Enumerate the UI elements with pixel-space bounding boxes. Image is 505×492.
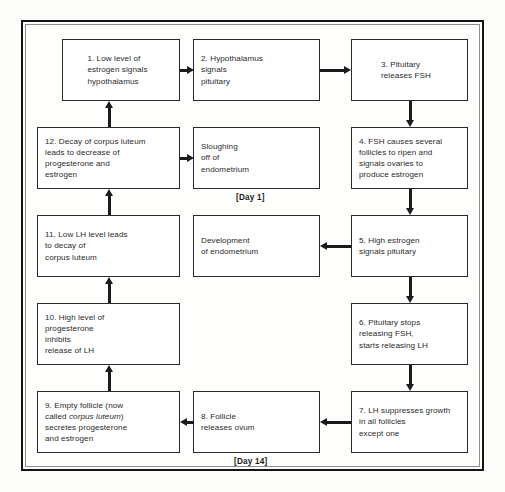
flow-arrow-1-to-2 bbox=[180, 66, 194, 75]
node-text-line: 1. Low level of bbox=[87, 53, 147, 64]
flowchart-node-step-1: 1. Low level ofestrogen signalshypothala… bbox=[62, 39, 180, 101]
flow-arrow-4-to-5 bbox=[406, 189, 415, 215]
flowchart-node-step-5: 5. High estrogensignals pituitary bbox=[351, 215, 468, 277]
node-text-line: 7. LH suppresses growth bbox=[359, 405, 460, 416]
arrow-head bbox=[105, 277, 113, 284]
node-text-line: estrogen bbox=[45, 169, 172, 180]
flow-arrow-6-to-7 bbox=[406, 365, 415, 391]
node-text-line: and estrogen bbox=[45, 433, 172, 444]
node-text-line: inhibits bbox=[45, 334, 172, 345]
arrow-shaft bbox=[325, 421, 351, 423]
arrow-shaft bbox=[108, 370, 110, 391]
node-text-line: 11. Low LH level leads bbox=[45, 229, 172, 240]
arrow-shaft bbox=[409, 365, 411, 386]
node-text-line: to decay of bbox=[45, 240, 172, 251]
node-text-line: signals ovaries to bbox=[359, 158, 460, 169]
node-text-line: signals bbox=[201, 64, 312, 75]
node-text-line: secretes progesterone bbox=[45, 422, 172, 433]
node-text-line: leads to decrease of bbox=[45, 147, 172, 158]
arrow-head bbox=[406, 384, 414, 391]
arrow-shaft bbox=[108, 106, 110, 127]
flowchart-node-step-6: 6. Pituitary stopsreleasing FSH,starts r… bbox=[351, 303, 468, 365]
arrow-shaft bbox=[325, 245, 351, 247]
arrow-head bbox=[180, 418, 187, 426]
node-text: 1. Low level ofestrogen signalshypothala… bbox=[87, 53, 154, 87]
node-text: 11. Low LH level leadsto decay ofcorpus … bbox=[38, 229, 179, 263]
node-text-line: progesterone bbox=[45, 323, 172, 334]
flow-arrow-10-to-11 bbox=[105, 277, 114, 303]
flowchart-node-step-4: 4. FSH causes severalfollicles to ripen … bbox=[351, 127, 468, 189]
arrow-head bbox=[187, 154, 194, 162]
arrow-head bbox=[406, 120, 414, 127]
flow-arrow-7-to-8 bbox=[320, 418, 351, 427]
flowchart-node-development: Developmentof endometrium bbox=[193, 215, 320, 277]
node-text-line: progesterone and bbox=[45, 158, 172, 169]
flowchart-node-step-9: 9. Empty follicle (nowcalled corpus lute… bbox=[37, 391, 180, 453]
node-text-line: releases ovum bbox=[201, 422, 312, 433]
node-text-line: starts releasing LH bbox=[359, 340, 460, 351]
node-text: 6. Pituitary stopsreleasing FSH,starts r… bbox=[352, 317, 467, 351]
arrow-head bbox=[406, 208, 414, 215]
day-caption-day-14: [Day 14] bbox=[234, 457, 267, 466]
node-text-line: of endometrium bbox=[201, 246, 312, 257]
arrow-head bbox=[187, 66, 194, 74]
node-text-line: produce estrogen bbox=[359, 169, 460, 180]
node-text-line: release of LH bbox=[45, 345, 172, 356]
flow-arrow-12-to-sloughing bbox=[180, 154, 194, 163]
flowchart-node-step-3: 3. Pituitaryreleases FSH bbox=[351, 39, 468, 101]
node-text-line: 8. Follicle bbox=[201, 411, 312, 422]
node-text-line: 3. Pituitary bbox=[381, 59, 431, 70]
node-text-line: in all follicles bbox=[359, 416, 460, 427]
arrow-shaft bbox=[108, 194, 110, 215]
node-text-line: Development bbox=[201, 235, 312, 246]
node-text: 10. High level ofprogesteroneinhibitsrel… bbox=[38, 312, 179, 357]
flowchart-node-step-10: 10. High level ofprogesteroneinhibitsrel… bbox=[37, 303, 180, 365]
node-text-line: off of bbox=[201, 152, 312, 163]
arrow-head bbox=[105, 101, 113, 108]
flowchart-node-sloughing: Sloughingoff ofendometrium bbox=[193, 127, 320, 189]
node-text-line: Sloughing bbox=[201, 141, 312, 152]
node-text: 2. Hypothalamussignalspituitary bbox=[194, 53, 319, 87]
day-caption-day-1: [Day 1] bbox=[236, 193, 265, 202]
flowchart-node-step-2: 2. Hypothalamussignalspituitary bbox=[193, 39, 320, 101]
node-text: 4. FSH causes severalfollicles to ripen … bbox=[352, 136, 467, 181]
node-text-line: signals pituitary bbox=[359, 246, 460, 257]
node-text-line: corpus luteum bbox=[45, 252, 172, 263]
flow-arrow-8-to-9 bbox=[180, 418, 194, 427]
node-text-line: releases FSH bbox=[381, 70, 431, 81]
node-text: 8. Folliclereleases ovum bbox=[194, 411, 319, 433]
arrow-shaft bbox=[108, 282, 110, 303]
node-text: 9. Empty follicle (nowcalled corpus lute… bbox=[38, 400, 179, 445]
node-text-line: hypothalamus bbox=[87, 76, 147, 87]
diagram-frame: 1. Low level ofestrogen signalshypothala… bbox=[21, 20, 484, 471]
node-text: 3. Pituitaryreleases FSH bbox=[381, 59, 438, 81]
arrow-head bbox=[320, 418, 327, 426]
arrow-shaft bbox=[320, 69, 346, 71]
arrow-head bbox=[320, 242, 327, 250]
node-text-line: releasing FSH, bbox=[359, 328, 460, 339]
node-text-line: endometrium bbox=[201, 164, 312, 175]
node-text-line: except one bbox=[359, 428, 460, 439]
node-text-line: 2. Hypothalamus bbox=[201, 53, 312, 64]
flowchart-node-step-8: 8. Folliclereleases ovum bbox=[193, 391, 320, 453]
node-text: 5. High estrogensignals pituitary bbox=[352, 235, 467, 257]
node-text: 7. LH suppresses growthin all folliclese… bbox=[352, 405, 467, 439]
flow-arrow-3-to-4 bbox=[406, 101, 415, 127]
node-text-line: 9. Empty follicle (now bbox=[45, 400, 172, 411]
flow-arrow-2-to-3 bbox=[320, 66, 351, 75]
arrow-head bbox=[105, 365, 113, 372]
flowchart-node-step-7: 7. LH suppresses growthin all folliclese… bbox=[351, 391, 468, 453]
node-text: 12. Decay of corpus luteumleads to decre… bbox=[38, 136, 179, 181]
node-text-line: 6. Pituitary stops bbox=[359, 317, 460, 328]
node-text-line: 5. High estrogen bbox=[359, 235, 460, 246]
flow-arrow-11-to-12 bbox=[105, 189, 114, 215]
node-text-line: called corpus luteum) bbox=[45, 411, 172, 422]
arrow-head bbox=[406, 296, 414, 303]
node-text-line: 10. High level of bbox=[45, 312, 172, 323]
arrow-shaft bbox=[409, 101, 411, 122]
arrow-shaft bbox=[409, 277, 411, 298]
flow-arrow-5-to-development bbox=[320, 242, 351, 251]
node-text-line: 12. Decay of corpus luteum bbox=[45, 136, 172, 147]
node-text-line: 4. FSH causes several bbox=[359, 136, 460, 147]
node-text: Sloughingoff ofendometrium bbox=[194, 141, 319, 175]
